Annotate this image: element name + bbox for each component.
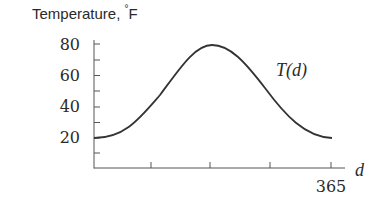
chart-plot: 80 60 40 20 365 d T(d)	[0, 0, 369, 198]
x-ticks	[151, 162, 331, 168]
xtick-label-365: 365	[316, 177, 347, 196]
y-ticks	[94, 44, 100, 153]
ytick-label-40: 40	[60, 97, 80, 116]
series-line-T	[94, 45, 332, 138]
ytick-label-20: 20	[60, 128, 80, 147]
ytick-label-60: 60	[60, 66, 80, 85]
x-axis-variable: d	[355, 160, 365, 180]
series-annotation-T: T(d)	[276, 60, 307, 81]
ytick-label-80: 80	[60, 35, 80, 54]
